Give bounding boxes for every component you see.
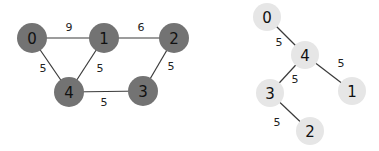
edge-weight-label: 5 — [292, 73, 299, 86]
node-label: 3 — [265, 85, 275, 103]
node-label: 2 — [305, 123, 315, 141]
edge-weight-label: 5 — [274, 116, 281, 129]
graph-canvas: 96555501234 555504132 — [0, 0, 379, 151]
edge-weight-label: 5 — [338, 57, 345, 70]
node-label: 2 — [169, 30, 179, 48]
node-label: 0 — [27, 30, 37, 48]
edge-weight-label: 6 — [138, 21, 145, 34]
edge-weight-label: 5 — [40, 62, 47, 75]
edge-weight-label: 5 — [276, 36, 283, 49]
node-label: 1 — [347, 83, 357, 101]
edge-weight-label: 5 — [168, 60, 175, 73]
node-label: 1 — [99, 30, 109, 48]
node-label: 3 — [138, 83, 148, 101]
node-label: 0 — [262, 9, 272, 27]
edge-weight-label: 5 — [97, 62, 104, 75]
edge-weight-label: 9 — [66, 21, 73, 34]
node-label: 4 — [64, 84, 74, 102]
spanning-tree: 555504132 — [253, 3, 366, 145]
node-label: 4 — [300, 47, 310, 65]
edge-weight-label: 5 — [101, 96, 108, 109]
original-graph: 96555501234 — [17, 21, 189, 109]
